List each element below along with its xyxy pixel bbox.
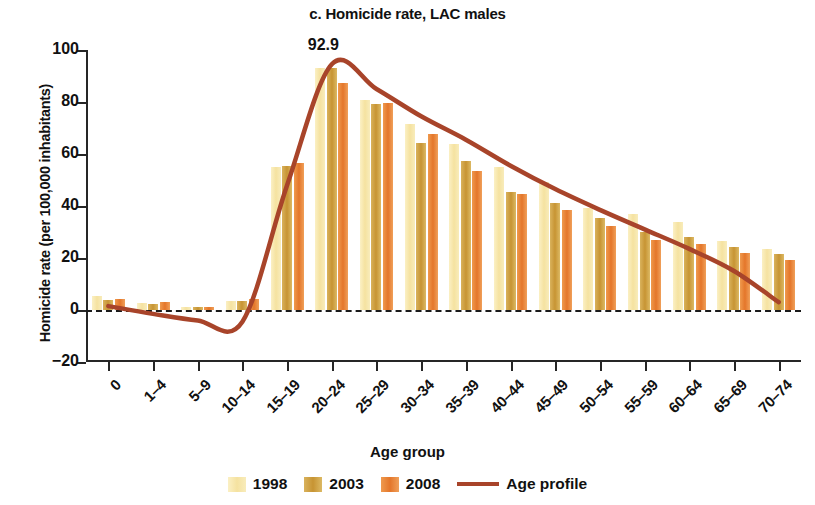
peak-value-annotation: 92.9 [308,36,339,54]
x-tick-mark [108,362,110,371]
x-tick-mark [421,362,423,371]
x-tick-mark [376,362,378,371]
x-tick-mark [332,362,334,371]
y-tick-label: 60 [61,144,79,162]
x-tick-mark [645,362,647,371]
y-axis-title: Homicide rate (per 100,000 inhabitants) [37,48,53,378]
x-tick-label: 40–44 [486,376,526,416]
legend-label: Age profile [506,475,587,493]
legend-label: 2003 [329,475,363,493]
chart-legend: 199820032008Age profile [0,475,815,493]
legend-label: 2008 [406,475,440,493]
legend-color-swatch [228,477,246,492]
x-tick-label: 70–74 [755,376,795,416]
legend-item-2003: 2003 [304,475,363,493]
x-tick-mark [555,362,557,371]
chart-title: c. Homicide rate, LAC males [0,5,815,22]
legend-label: 1998 [253,475,287,493]
age-profile-path [108,60,778,332]
y-tick-label: 40 [61,196,79,214]
x-tick-mark [153,362,155,371]
legend-color-swatch [381,477,399,492]
y-tick-label: 20 [61,248,79,266]
legend-item-1998: 1998 [228,475,287,493]
x-tick-label: 10–14 [218,376,258,416]
x-tick-label: 20–24 [308,376,348,416]
x-tick-mark [689,362,691,371]
x-tick-label: 35–39 [442,376,482,416]
x-tick-label: 0 [107,376,125,394]
x-tick-mark [600,362,602,371]
x-tick-label: 1–4 [140,376,169,405]
x-tick-label: 25–29 [352,376,392,416]
y-tick-label: −20 [52,352,79,370]
chart-figure: c. Homicide rate, LAC males Homicide rat… [0,0,815,505]
x-tick-mark [779,362,781,371]
x-tick-mark [734,362,736,371]
x-tick-label: 55–59 [621,376,661,416]
legend-item-2008: 2008 [381,475,440,493]
x-tick-label: 30–34 [397,376,437,416]
legend-color-swatch [304,477,322,492]
y-tick-label: 100 [52,40,79,58]
x-tick-mark [511,362,513,371]
legend-line-swatch [457,482,499,486]
age-profile-line [86,50,801,362]
x-tick-mark [198,362,200,371]
x-tick-label: 50–54 [576,376,616,416]
x-tick-label: 5–9 [185,376,214,405]
legend-item-age-profile: Age profile [457,475,587,493]
x-tick-label: 15–19 [263,376,303,416]
x-tick-mark [287,362,289,371]
y-tick-label: 0 [70,300,79,318]
plot-area: −20020406080100 01–45–910–1415–1920–2425… [86,50,801,362]
x-axis-title: Age group [0,443,815,460]
x-tick-label: 60–64 [665,376,705,416]
x-tick-label: 45–49 [531,376,571,416]
y-tick-label: 80 [61,92,79,110]
x-tick-mark [242,362,244,371]
x-tick-label: 65–69 [710,376,750,416]
x-tick-mark [466,362,468,371]
